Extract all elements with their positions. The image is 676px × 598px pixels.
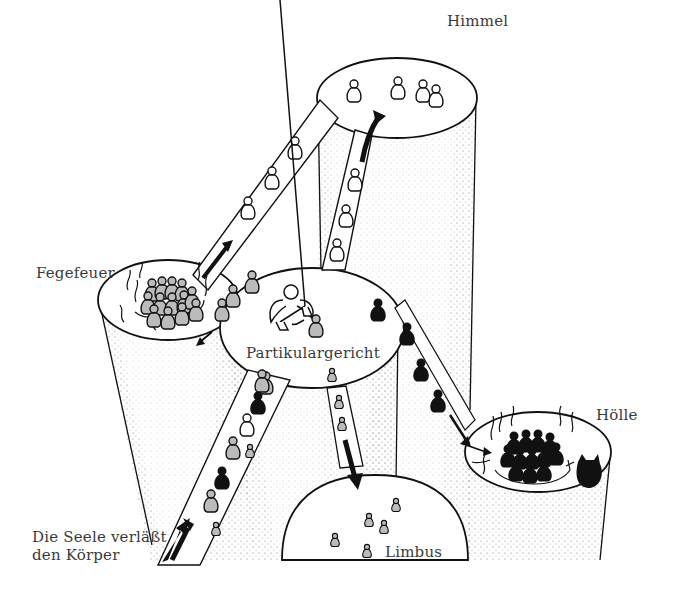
label-himmel: Himmel — [447, 12, 508, 30]
diagram-illustration — [0, 0, 676, 598]
path-purgatory-to-heaven — [193, 100, 338, 290]
label-start-line1: Die Seele verläßt — [32, 528, 182, 546]
afterlife-diagram: Himmel Fegefeuer Partikulargericht Hölle… — [0, 0, 676, 598]
label-start: Die Seele verläßt den Körper — [32, 528, 182, 564]
label-limbus: Limbus — [385, 543, 442, 561]
label-partikulargericht: Partikulargericht — [246, 344, 380, 362]
label-hoelle: Hölle — [596, 406, 638, 424]
label-fegefeuer: Fegefeuer — [36, 264, 115, 282]
label-start-line2: den Körper — [32, 546, 182, 564]
